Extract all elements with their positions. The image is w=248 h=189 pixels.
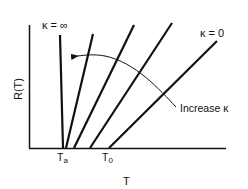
y-axis-label: R(T) bbox=[12, 78, 24, 100]
rt-lines bbox=[60, 23, 217, 148]
increase-kappa-arrow bbox=[78, 55, 176, 107]
tick-label-ta: Ta bbox=[57, 151, 68, 165]
tick-label-t0: T0 bbox=[102, 151, 113, 165]
line-kappa-mid-1 bbox=[66, 34, 93, 148]
increase-kappa-label: Increase κ bbox=[180, 102, 229, 114]
kappa-zero-label: κ = 0 bbox=[200, 27, 224, 39]
x-axis-label: T bbox=[123, 175, 130, 187]
line-kappa-infinity bbox=[60, 35, 63, 148]
line-kappa-mid-2 bbox=[74, 25, 134, 148]
kappa-infinity-label: κ = ∞ bbox=[42, 19, 68, 31]
diagram-canvas: κ = ∞ κ = 0 Increase κ R(T) T Ta T0 bbox=[0, 0, 248, 189]
line-kappa-mid-3 bbox=[90, 23, 172, 148]
